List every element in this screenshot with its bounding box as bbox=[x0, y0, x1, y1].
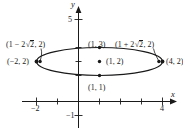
label-left-focus-suffix: , 2) bbox=[34, 40, 45, 49]
point-center bbox=[98, 60, 101, 63]
label-right-focus-suffix: , 2) bbox=[143, 40, 154, 49]
y-tick-label-5: 5 bbox=[68, 16, 72, 24]
label-top-covertex: (1, 3) bbox=[88, 41, 105, 49]
y-tick-label-neg1: −1 bbox=[66, 112, 75, 120]
label-right-focus-prefix: (1 + 2 bbox=[115, 40, 134, 49]
leader-line-left-focus bbox=[40, 49, 41, 61]
x-tick-label-neg2: −2 bbox=[31, 105, 40, 113]
radical-arg-left: 2 bbox=[30, 40, 35, 49]
x-axis-label: x bbox=[171, 90, 175, 99]
point-right-vertex bbox=[161, 60, 165, 64]
label-right-vertex: (4, 2) bbox=[166, 58, 183, 66]
point-right-focus bbox=[157, 60, 160, 63]
ellipse-figure: (1 − 2√2, 2) (1 + 2√2, 2) (1, 3) (1, 2) … bbox=[0, 0, 183, 133]
label-left-focus: (1 − 2√2, 2) bbox=[6, 40, 45, 49]
label-right-focus: (1 + 2√2, 2) bbox=[115, 40, 154, 49]
radical-right: √2 bbox=[134, 40, 143, 49]
point-left-focus bbox=[38, 60, 41, 63]
x-axis-arrow bbox=[170, 99, 177, 105]
point-left-vertex bbox=[35, 60, 39, 64]
label-center: (1, 2) bbox=[106, 58, 123, 66]
x-tick-label-4: 4 bbox=[160, 105, 164, 113]
plot-canvas bbox=[0, 0, 183, 133]
radical-left: √2 bbox=[25, 40, 34, 49]
y-axis-arrow bbox=[76, 6, 82, 13]
radical-arg-right: 2 bbox=[139, 40, 144, 49]
y-axis-label: y bbox=[71, 0, 75, 9]
label-bottom-covertex: (1, 1) bbox=[88, 84, 105, 92]
label-left-focus-prefix: (1 − 2 bbox=[6, 40, 25, 49]
label-left-vertex: (−2, 2) bbox=[7, 58, 29, 66]
point-bottom-covertex bbox=[98, 74, 101, 77]
